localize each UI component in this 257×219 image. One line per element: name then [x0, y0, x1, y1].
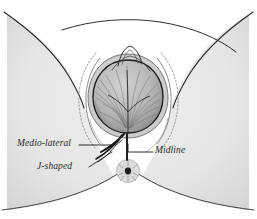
episiotomy-figure: Medio-lateral Midline J-shaped [0, 0, 257, 219]
leader-midline [128, 144, 153, 152]
annotation-label-medio-lateral: Medio-lateral [17, 139, 71, 149]
annotation-label-midline: Midline [155, 146, 185, 156]
anus [117, 160, 140, 183]
annotation-label-j-shaped: J-shaped [37, 162, 72, 172]
fetal-head [93, 60, 163, 133]
figure-illustration [0, 0, 257, 219]
